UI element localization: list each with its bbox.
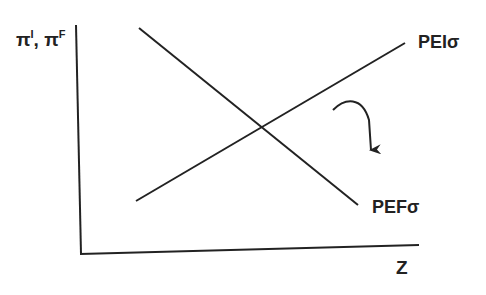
x-axis-label: Z: [396, 257, 408, 278]
shift-arrow-icon: [333, 101, 371, 150]
pef-sigma-label: PEFσ: [372, 197, 419, 217]
x-axis: [80, 245, 419, 254]
y-axis-label: πI, πF: [16, 28, 66, 50]
pei-sigma-line: [136, 43, 405, 201]
economics-diagram: πI, πF Z PEIσ PEFσ: [0, 0, 486, 295]
pei-sigma-label: PEIσ: [418, 32, 459, 52]
pef-sigma-line: [139, 28, 358, 205]
y-axis: [76, 25, 81, 254]
